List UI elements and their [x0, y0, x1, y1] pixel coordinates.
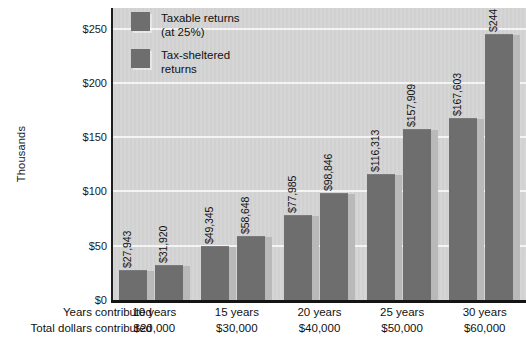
bar-side-shadow [431, 130, 438, 301]
bar: $31,920 [155, 266, 183, 301]
bar: $27,943 [119, 271, 147, 301]
y-axis-title: Thousands [15, 109, 27, 199]
legend-swatch-taxable-returns [131, 12, 150, 31]
bar-chart: $27,943$31,920$49,345$58,648$77,985$98,8… [0, 0, 526, 346]
bar-face [284, 215, 312, 301]
bar: $167,603 [449, 119, 477, 301]
table-cell: 15 years [192, 305, 282, 320]
bar: $58,648 [237, 237, 265, 301]
y-axis-line [111, 8, 113, 303]
bar-side-shadow [477, 119, 484, 301]
bar-face [201, 246, 229, 301]
table-cell: 25 years [357, 305, 447, 320]
table-cell: $40,000 [275, 321, 365, 336]
table-row: Years contributed 10 years15 years20 yea… [0, 305, 526, 321]
bar-face [155, 265, 183, 301]
bar: $116,313 [367, 175, 395, 301]
bar-side-shadow [183, 266, 190, 301]
bar-face [403, 129, 431, 301]
bar: $157,909 [403, 130, 431, 301]
legend-item-taxable-returns: Taxable returns (at 25%) [131, 12, 321, 39]
bar-face [320, 193, 348, 301]
bar-side-shadow [229, 247, 236, 301]
table-cell: 20 years [275, 305, 365, 320]
table-cell: $20,000 [109, 321, 199, 336]
bar-side-shadow [513, 35, 520, 301]
legend-label-taxable-returns: Taxable returns (at 25%) [161, 12, 240, 39]
table-cell: 10 years [109, 305, 199, 320]
y-axis-tick-label: $200 [7, 78, 107, 89]
table-cell: $50,000 [357, 321, 447, 336]
plot-area: $27,943$31,920$49,345$58,648$77,985$98,8… [113, 8, 526, 301]
bar-face [485, 34, 513, 301]
bar-face [449, 118, 477, 301]
table-cell: $60,000 [440, 321, 526, 336]
legend-label-line1: Tax-sheltered [161, 49, 230, 63]
x-axis-line [111, 300, 526, 303]
bar-side-shadow [265, 237, 272, 301]
y-axis-tick-label: $50 [7, 241, 107, 252]
bottom-label-table: Years contributed 10 years15 years20 yea… [0, 305, 526, 337]
bar: $77,985 [284, 216, 312, 301]
legend-label-line2: (at 25%) [161, 26, 240, 40]
bar-side-shadow [395, 175, 402, 301]
y-axis-tick-label: $250 [7, 24, 107, 35]
bar-face [367, 174, 395, 301]
table-cell: 30 years [440, 305, 526, 320]
bar-side-shadow [312, 216, 319, 301]
bar-side-shadow [348, 194, 355, 301]
legend-label-line1: Taxable returns [161, 12, 240, 26]
table-row: Total dollars contributed $20,000$30,000… [0, 321, 526, 337]
bar-face [119, 270, 147, 301]
table-cell: $30,000 [192, 321, 282, 336]
bar-side-shadow [147, 271, 154, 301]
legend-item-tax-sheltered-returns: Tax-sheltered returns [131, 49, 321, 76]
bar: $98,846 [320, 194, 348, 301]
legend: Taxable returns (at 25%) Tax-sheltered r… [131, 12, 321, 86]
bar: $49,345 [201, 247, 229, 301]
legend-label-line2: returns [161, 63, 230, 77]
bar: $244,691 [485, 35, 513, 301]
legend-label-tax-sheltered-returns: Tax-sheltered returns [161, 49, 230, 76]
legend-swatch-tax-sheltered-returns [131, 49, 150, 68]
bar-face [237, 236, 265, 301]
